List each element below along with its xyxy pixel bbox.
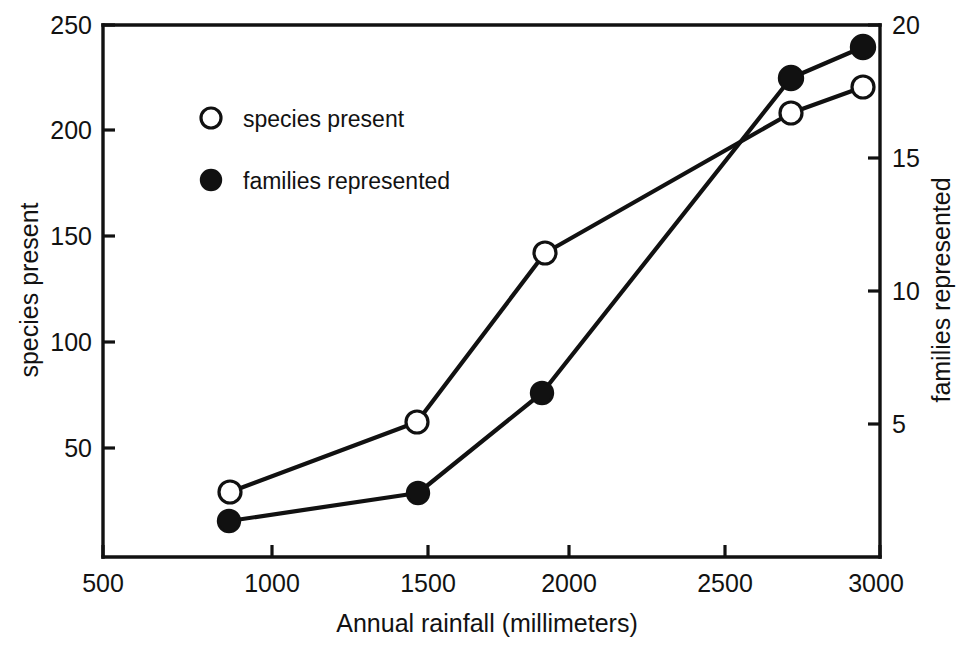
y2-tick-label: 20 — [892, 11, 920, 39]
series-line-species-present — [230, 87, 863, 492]
chart-figure: 250 200 150 100 50 20 15 10 5 — [0, 0, 973, 646]
x-axis-ticks — [103, 545, 880, 557]
x-tick-label: 2500 — [697, 569, 753, 597]
y-axis-ticks — [103, 25, 115, 448]
legend-label-species-present: species present — [243, 106, 405, 132]
y-tick-label: 150 — [50, 222, 92, 250]
legend-label-families-represented: families represented — [243, 168, 450, 194]
data-point-families-represented — [531, 382, 553, 404]
data-point-families-represented — [218, 510, 240, 532]
y2-tick-label: 15 — [892, 144, 920, 172]
x-tick-label: 2000 — [541, 569, 597, 597]
chart-legend: species present families represented — [201, 106, 450, 194]
series-species-present — [219, 76, 874, 503]
data-point-species-present — [219, 481, 241, 503]
y-axis-title: species present — [15, 202, 43, 377]
y2-axis-tick-labels: 20 15 10 5 — [892, 11, 920, 438]
data-point-families-represented — [851, 35, 875, 59]
x-axis-tick-labels: 500 1000 1500 2000 2500 3000 — [82, 569, 904, 597]
y2-tick-label: 5 — [892, 410, 906, 438]
data-point-families-represented — [779, 66, 803, 90]
data-point-families-represented — [407, 482, 429, 504]
data-point-species-present — [406, 411, 428, 433]
x-axis-title: Annual rainfall (millimeters) — [336, 609, 637, 637]
x-tick-label: 1500 — [400, 569, 456, 597]
y-tick-label: 250 — [50, 11, 92, 39]
y-tick-label: 100 — [50, 328, 92, 356]
chart-container: 250 200 150 100 50 20 15 10 5 — [0, 0, 973, 646]
x-tick-label: 1000 — [244, 569, 300, 597]
data-point-species-present — [534, 242, 556, 264]
y-tick-label: 50 — [64, 434, 92, 462]
data-point-species-present — [852, 76, 874, 98]
x-tick-label: 500 — [82, 569, 124, 597]
x-tick-label: 3000 — [848, 569, 904, 597]
y-tick-label: 200 — [50, 116, 92, 144]
data-point-species-present — [780, 102, 802, 124]
legend-marker-filled-circle-icon — [201, 170, 221, 190]
legend-marker-open-circle-icon — [201, 108, 221, 128]
y2-tick-label: 10 — [892, 277, 920, 305]
y-axis-tick-labels: 250 200 150 100 50 — [50, 11, 92, 462]
y2-axis-title: families represented — [927, 177, 955, 402]
